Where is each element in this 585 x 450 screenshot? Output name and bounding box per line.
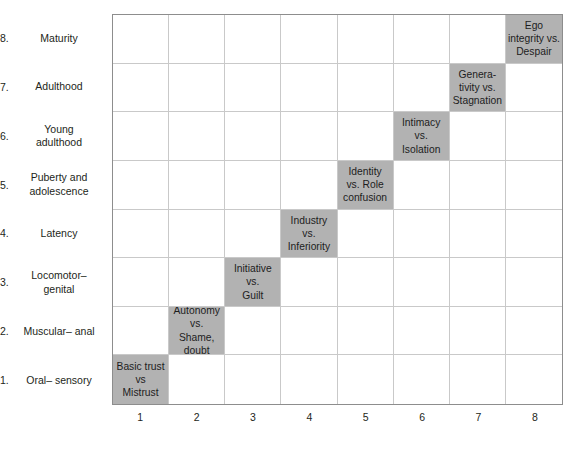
row-label-5: 5.Puberty and adolescence <box>0 161 106 210</box>
stage-cell-text: Autonomy <box>171 307 222 318</box>
column-label-3: 3 <box>225 408 281 430</box>
stage-cell-text: vs. Role <box>343 178 387 191</box>
empty-cell-6-1 <box>113 112 169 161</box>
empty-cell-7-4 <box>281 64 337 113</box>
empty-cell-7-6 <box>394 64 450 113</box>
row-label-text: Oral– sensory <box>20 374 100 388</box>
row-label-3: 3.Locomotor– genital <box>0 258 106 307</box>
row-label-text: Latency <box>20 227 100 241</box>
row-label-number: 1. <box>0 374 20 387</box>
empty-cell-1-8 <box>506 355 562 404</box>
empty-cell-6-3 <box>225 112 281 161</box>
column-label-2: 2 <box>168 408 224 430</box>
stage-cell-3-3: Initiativevs.Guilt <box>225 258 281 307</box>
stage-cell-text: vs. <box>234 275 272 288</box>
empty-cell-5-4 <box>281 161 337 210</box>
row-label-number: 8. <box>0 32 20 45</box>
stage-cell-content: Egointegrity vs.Despair <box>508 19 560 59</box>
empty-cell-6-7 <box>450 112 506 161</box>
stage-cell-content: Industryvs.Inferiority <box>288 214 330 254</box>
empty-cell-2-4 <box>281 307 337 356</box>
row-label-text: Adulthood <box>20 80 100 94</box>
stage-cell-content: Basic trustvsMistrust <box>117 360 165 400</box>
column-label-5: 5 <box>338 408 394 430</box>
empty-cell-4-3 <box>225 210 281 259</box>
erikson-stages-chart: 8.Maturity7.Adulthood6.Young adulthood5.… <box>0 0 585 450</box>
row-label-number: 3. <box>0 276 20 289</box>
empty-cell-1-7 <box>450 355 506 404</box>
empty-cell-8-4 <box>281 15 337 64</box>
row-label-number: 6. <box>0 130 20 143</box>
empty-cell-1-2 <box>169 355 225 404</box>
row-label-number: 5. <box>0 179 20 192</box>
stage-cell-text: Industry <box>288 214 330 227</box>
row-label-7: 7.Adulthood <box>0 63 106 112</box>
empty-cell-8-5 <box>338 15 394 64</box>
stage-cell-text: vs. Shame, <box>171 317 222 343</box>
empty-cell-8-3 <box>225 15 281 64</box>
empty-cell-2-1 <box>113 307 169 356</box>
empty-cell-3-5 <box>338 258 394 307</box>
stage-cell-text: Identity <box>343 165 387 178</box>
stage-cell-content: Genera-tivity vs.Stagnation <box>453 68 502 108</box>
empty-cell-7-8 <box>506 64 562 113</box>
empty-cell-2-7 <box>450 307 506 356</box>
stage-cell-4-4: Industryvs.Inferiority <box>281 210 337 259</box>
empty-cell-8-2 <box>169 15 225 64</box>
empty-cell-5-3 <box>225 161 281 210</box>
empty-cell-6-8 <box>506 112 562 161</box>
stage-cell-5-5: Identityvs. Roleconfusion <box>338 161 394 210</box>
column-label-7: 7 <box>450 408 506 430</box>
empty-cell-5-7 <box>450 161 506 210</box>
row-label-number: 4. <box>0 227 20 240</box>
stage-cell-text: Inferiority <box>288 240 330 253</box>
stage-cell-2-2: Autonomyvs. Shame,doubt <box>169 307 225 356</box>
stage-cell-text: Initiative <box>234 262 272 275</box>
stage-cell-8-8: Egointegrity vs.Despair <box>506 15 562 64</box>
column-label-axis: 12345678 <box>112 408 563 430</box>
row-label-text: Young adulthood <box>20 123 100 150</box>
row-label-text: Maturity <box>20 32 100 46</box>
row-label-number: 2. <box>0 325 20 338</box>
empty-cell-2-3 <box>225 307 281 356</box>
empty-cell-8-7 <box>450 15 506 64</box>
empty-cell-3-7 <box>450 258 506 307</box>
empty-cell-7-1 <box>113 64 169 113</box>
row-label-1: 1.Oral– sensory <box>0 356 106 405</box>
stage-cell-text: tivity vs. <box>453 81 502 94</box>
empty-cell-6-2 <box>169 112 225 161</box>
empty-cell-4-2 <box>169 210 225 259</box>
empty-cell-8-6 <box>394 15 450 64</box>
empty-cell-7-5 <box>338 64 394 113</box>
stage-cell-text: vs <box>117 373 165 386</box>
stage-cell-text: Genera- <box>453 68 502 81</box>
stage-cell-text: Despair <box>508 45 560 58</box>
empty-cell-7-3 <box>225 64 281 113</box>
row-label-2: 2.Muscular– anal <box>0 307 106 356</box>
column-label-6: 6 <box>394 408 450 430</box>
empty-cell-4-5 <box>338 210 394 259</box>
empty-cell-8-1 <box>113 15 169 64</box>
stage-cell-content: Intimacyvs.Isolation <box>402 116 440 156</box>
stage-cell-text: Stagnation <box>453 94 502 107</box>
empty-cell-5-8 <box>506 161 562 210</box>
row-label-number: 7. <box>0 81 20 94</box>
column-label-8: 8 <box>507 408 563 430</box>
stage-cell-1-1: Basic trustvsMistrust <box>113 355 169 404</box>
empty-cell-3-8 <box>506 258 562 307</box>
row-label-4: 4.Latency <box>0 210 106 259</box>
empty-cell-5-1 <box>113 161 169 210</box>
empty-cell-1-4 <box>281 355 337 404</box>
empty-cell-7-2 <box>169 64 225 113</box>
empty-cell-4-1 <box>113 210 169 259</box>
stage-cell-text: Guilt <box>234 289 272 302</box>
empty-cell-6-5 <box>338 112 394 161</box>
stage-cell-text: integrity vs. <box>508 32 560 45</box>
empty-cell-1-6 <box>394 355 450 404</box>
stage-cell-text: Basic trust <box>117 360 165 373</box>
stage-cell-content: Initiativevs.Guilt <box>234 262 272 302</box>
stage-cell-text: Isolation <box>402 143 440 156</box>
empty-cell-3-1 <box>113 258 169 307</box>
empty-cell-1-5 <box>338 355 394 404</box>
stage-cell-6-6: Intimacyvs.Isolation <box>394 112 450 161</box>
